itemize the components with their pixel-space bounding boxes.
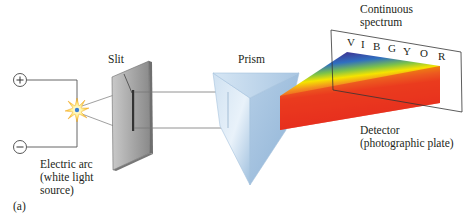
continuous-spectrum-label-2: spectrum	[360, 16, 402, 29]
arc-label-3: source)	[40, 184, 74, 197]
spectrum-letter-g: G	[388, 42, 396, 54]
continuous-spectrum-label-1: Continuous	[360, 3, 413, 16]
arc-label-1: Electric arc	[40, 158, 93, 171]
prism-label: Prism	[238, 53, 265, 66]
detector-label-2: (photographic plate)	[360, 137, 454, 150]
slit-opening	[132, 90, 134, 131]
circuit-wires	[27, 80, 77, 147]
spectrum-letter-r: R	[438, 50, 445, 62]
electric-arc-icon	[65, 98, 89, 122]
spectrum-letter-i: I	[361, 38, 365, 50]
slit-label: Slit	[108, 53, 124, 66]
figure-label: (a)	[13, 200, 26, 213]
light-rays	[82, 95, 114, 126]
spectrum-letter-b: B	[373, 40, 380, 52]
detector-label-1: Detector	[360, 124, 400, 137]
spectrum-letter-y: Y	[403, 45, 411, 57]
prism	[213, 73, 299, 185]
negative-terminal-icon	[14, 141, 27, 154]
spectroscope-diagram: Slit Prism Continuous spectrum Detector …	[0, 0, 471, 219]
spectrum-letter-o: O	[420, 47, 428, 59]
dispersed-spectrum	[280, 52, 440, 130]
slit-plate	[112, 61, 153, 171]
positive-terminal-icon	[14, 74, 27, 87]
arc-label-2: (white light	[40, 171, 93, 184]
spectrum-letter-v: V	[347, 36, 355, 48]
